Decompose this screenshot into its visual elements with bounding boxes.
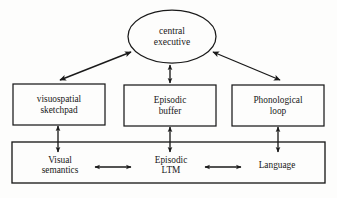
connector-central-executive-to-visuospatial-sketchpad: [60, 52, 131, 80]
phonological-loop-box: [232, 85, 324, 126]
central-executive-ellipse: [128, 10, 216, 63]
diagram-canvas: [0, 0, 337, 198]
visuospatial-sketchpad-box: [13, 84, 105, 125]
episodic-buffer-box: [124, 85, 216, 126]
working-memory-model-diagram: central executive visuospatial sketchpad…: [0, 0, 337, 198]
connector-central-executive-to-phonological-loop: [213, 52, 280, 80]
